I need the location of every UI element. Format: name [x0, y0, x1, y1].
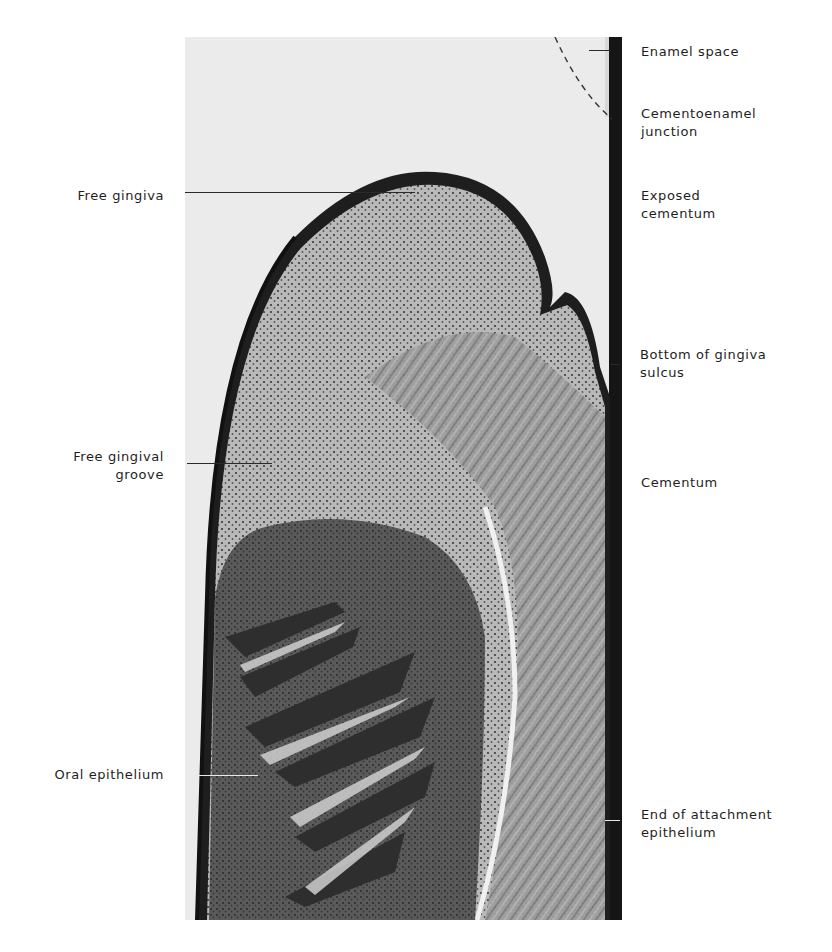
label-oral-epithelium: Oral epithelium	[54, 766, 164, 784]
leader-enamel-space	[589, 50, 611, 51]
label-free-gingiva: Free gingiva	[77, 187, 164, 205]
label-end-of-attachment-epithelium: End of attachment epithelium	[641, 806, 772, 842]
label-exposed-cementum: Exposed cementum	[641, 187, 716, 223]
leader-end-of-attachment-epithelium	[605, 820, 620, 821]
label-enamel-space: Enamel space	[641, 43, 739, 61]
leader-oral-epithelium	[195, 775, 258, 776]
label-bottom-of-gingiva-sulcus: Bottom of gingiva sulcus	[640, 346, 766, 382]
leader-bottom-of-gingiva-sulcus	[611, 364, 620, 365]
label-cementum: Cementum	[641, 474, 718, 492]
gingiva-micrograph	[185, 37, 622, 920]
label-free-gingival-groove: Free gingival groove	[73, 448, 164, 484]
label-cementoenamel-junction: Cementoenamel junction	[641, 105, 756, 141]
leader-free-gingival-groove	[187, 463, 272, 464]
leader-free-gingiva	[185, 192, 415, 193]
